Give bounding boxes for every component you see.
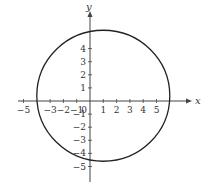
x-tick-label: −3 <box>43 105 57 115</box>
y-tick-label: −3 <box>73 135 87 145</box>
x-axis-arrow-icon <box>186 99 192 104</box>
y-tick-label: −2 <box>73 122 86 132</box>
x-tick-label: 2 <box>114 105 120 115</box>
x-tick-label: −5 <box>17 105 31 115</box>
x-tick-label: 3 <box>127 105 133 115</box>
x-tick-label: 5 <box>154 105 160 115</box>
y-tick-label: −1 <box>73 109 86 119</box>
y-tick-label: 4 <box>80 44 86 54</box>
axes <box>18 11 192 182</box>
x-tick-label: −2 <box>57 105 70 115</box>
x-axis-label: x <box>195 95 201 106</box>
y-tick-label: 3 <box>80 57 86 67</box>
circle-graph: −5−3−2−10123454321−1−2−3−4−5 x y <box>0 0 202 186</box>
y-tick-label: 2 <box>80 70 86 80</box>
y-tick-label: −5 <box>73 162 87 172</box>
x-tick-label: 4 <box>140 105 146 115</box>
y-tick-label: 1 <box>80 83 86 93</box>
y-axis-label: y <box>85 1 92 12</box>
curves <box>37 30 170 161</box>
x-tick-label: 1 <box>100 105 106 115</box>
circle-curve <box>37 30 170 161</box>
